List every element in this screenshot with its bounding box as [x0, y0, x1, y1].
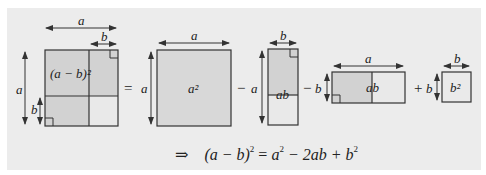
- operator-equals: =: [124, 80, 132, 96]
- fig5-left-label: b: [426, 81, 433, 96]
- fig3-region-label: ab: [276, 87, 290, 102]
- figure-1-square: a b a b (a − b)²: [16, 13, 118, 126]
- figure-3-rectangle: b a ab: [251, 28, 298, 125]
- fig3-left-label: a: [251, 81, 258, 96]
- fig2-left-label: a: [141, 81, 148, 96]
- fig1-top-label: a: [78, 13, 85, 28]
- fig1-inner-left-label: b: [31, 102, 38, 117]
- formula-middle: − 2ab +: [284, 146, 346, 163]
- fig3-top-label: b: [280, 28, 287, 43]
- fig4-region-label: ab: [366, 80, 380, 95]
- formula-b-exponent: 2: [353, 144, 358, 154]
- formula-equals: =: [254, 146, 271, 163]
- operator-minus-1: −: [237, 80, 245, 96]
- operator-minus-2: −: [303, 80, 311, 96]
- fig2-top-label: a: [191, 28, 198, 43]
- operator-plus: +: [414, 80, 422, 96]
- fig1-inner-top-label: b: [101, 29, 108, 44]
- figure-4-rectangle: a b ab: [315, 51, 405, 103]
- fig2-region-label: a²: [188, 81, 200, 96]
- result-formula: ⇒(a − b)2 = a2 − 2ab + b2: [175, 145, 358, 164]
- fig1-left-label: a: [16, 82, 23, 97]
- implies-arrow: ⇒: [175, 146, 188, 163]
- fig4-top-label: a: [365, 51, 372, 66]
- figure-5-square: b b b²: [426, 51, 471, 102]
- fig5-top-label: b: [454, 51, 461, 66]
- fig4-left-label: b: [315, 81, 322, 96]
- formula-lhs: (a − b): [204, 146, 249, 163]
- fig5-region-label: b²: [450, 80, 462, 95]
- figure-2-square: a a a²: [141, 28, 231, 126]
- fig1-region-label: (a − b)²: [50, 66, 92, 81]
